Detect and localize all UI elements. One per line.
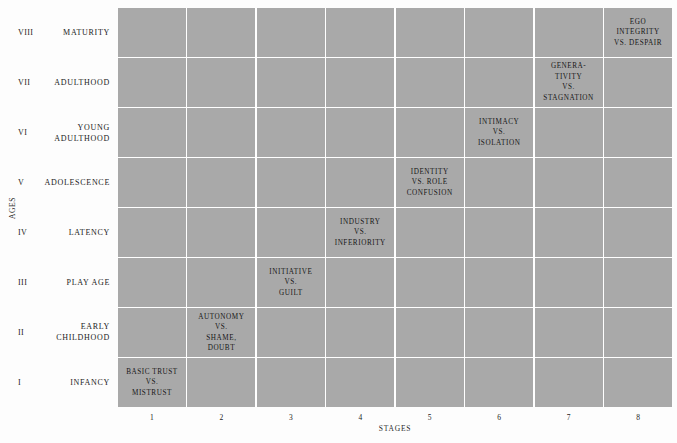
grid-cell[interactable] (604, 158, 672, 207)
grid-cell[interactable] (535, 8, 603, 57)
grid-cell[interactable] (187, 58, 255, 107)
row-name: INFANCY (18, 377, 114, 388)
grid-cell[interactable] (465, 58, 533, 107)
grid-cell[interactable] (326, 158, 394, 207)
grid-cell-intimacy[interactable]: INTIMACY VS. ISOLATION (465, 108, 533, 157)
row-label-infancy: I INFANCY (18, 357, 114, 407)
row-numeral: IV (18, 228, 27, 237)
grid-cell[interactable] (535, 358, 603, 407)
grid-cell[interactable] (396, 208, 464, 257)
grid-cell[interactable] (535, 308, 603, 357)
grid-cell[interactable] (257, 8, 325, 57)
grid-cell[interactable] (257, 108, 325, 157)
column-label-4: 4 (326, 410, 394, 424)
row-label-latency: IV LATENCY (18, 208, 114, 258)
row-numeral: II (18, 328, 24, 337)
grid-cell-ego-integrity[interactable]: EGO INTEGRITY VS. DESPAIR (604, 8, 672, 57)
grid-cell[interactable] (535, 108, 603, 157)
grid-cell[interactable] (187, 108, 255, 157)
column-label-1: 1 (118, 410, 186, 424)
grid-cell[interactable] (465, 358, 533, 407)
row-numeral: I (18, 378, 21, 387)
column-label-row: 1 2 3 4 5 6 7 8 (118, 410, 672, 424)
grid-cell[interactable] (187, 258, 255, 307)
grid-cell[interactable] (396, 358, 464, 407)
grid-cell[interactable] (604, 58, 672, 107)
grid-cell[interactable] (257, 208, 325, 257)
grid-cell[interactable] (465, 158, 533, 207)
grid-cell[interactable] (465, 8, 533, 57)
grid-cell[interactable] (465, 208, 533, 257)
stages-grid: EGO INTEGRITY VS. DESPAIR GENERA- TIVITY… (118, 8, 672, 407)
grid-cell[interactable] (396, 108, 464, 157)
row-numeral: VI (18, 128, 27, 137)
grid-cell[interactable] (604, 108, 672, 157)
grid-cell[interactable] (396, 8, 464, 57)
stages-axis-title: STAGES (118, 424, 672, 433)
grid-cell-identity[interactable]: IDENTITY VS. ROLE CONFUSION (396, 158, 464, 207)
grid-cell[interactable] (118, 308, 186, 357)
row-label-play-age: III PLAY AGE (18, 257, 114, 307)
grid-cell[interactable] (535, 258, 603, 307)
grid-cell[interactable] (257, 58, 325, 107)
grid-cell[interactable] (187, 358, 255, 407)
row-label-adulthood: VII ADULTHOOD (18, 58, 114, 108)
grid-cell-industry[interactable]: INDUSTRY VS. INFERIORITY (326, 208, 394, 257)
grid-cell[interactable] (118, 108, 186, 157)
row-name: ADOLESCENCE (18, 177, 114, 188)
grid-cell[interactable] (118, 258, 186, 307)
grid-cell[interactable] (257, 158, 325, 207)
column-label-8: 8 (604, 410, 672, 424)
grid-cell[interactable] (604, 308, 672, 357)
column-label-6: 6 (465, 410, 533, 424)
row-name: YOUNG ADULTHOOD (18, 122, 114, 144)
column-label-3: 3 (257, 410, 325, 424)
column-label-2: 2 (187, 410, 255, 424)
grid-cell[interactable] (535, 208, 603, 257)
row-label-early-childhood: II EARLY CHILDHOOD (18, 307, 114, 357)
grid-cell[interactable] (465, 258, 533, 307)
grid-cell[interactable] (326, 108, 394, 157)
row-label-column: VIII MATURITY VII ADULTHOOD VI YOUNG ADU… (18, 8, 114, 407)
grid-cell-generativity[interactable]: GENERA- TIVITY VS. STAGNATION (535, 58, 603, 107)
grid-cell[interactable] (187, 158, 255, 207)
grid-cell[interactable] (118, 58, 186, 107)
row-label-maturity: VIII MATURITY (18, 8, 114, 58)
grid-cell[interactable] (604, 208, 672, 257)
grid-cell[interactable] (118, 158, 186, 207)
grid-cell[interactable] (118, 8, 186, 57)
row-name: LATENCY (18, 227, 114, 238)
grid-cell[interactable] (396, 58, 464, 107)
grid-cell[interactable] (604, 258, 672, 307)
grid-cell[interactable] (187, 208, 255, 257)
grid-cell[interactable] (257, 308, 325, 357)
row-label-adolescence: V ADOLESCENCE (18, 158, 114, 208)
grid-cell[interactable] (604, 358, 672, 407)
grid-cell[interactable] (465, 308, 533, 357)
grid-cell[interactable] (396, 308, 464, 357)
grid-cell[interactable] (326, 358, 394, 407)
grid-cell-autonomy[interactable]: AUTONOMY VS. SHAME, DOUBT (187, 308, 255, 357)
grid-cell[interactable] (326, 58, 394, 107)
grid-cell[interactable] (118, 208, 186, 257)
grid-cell-basic-trust[interactable]: BASIC TRUST VS. MISTRUST (118, 358, 186, 407)
column-label-5: 5 (396, 410, 464, 424)
grid-cell[interactable] (187, 8, 255, 57)
grid-cell[interactable] (396, 258, 464, 307)
row-numeral: V (18, 178, 24, 187)
grid-cell[interactable] (257, 358, 325, 407)
grid-cell-initiative[interactable]: INITIATIVE VS. GUILT (257, 258, 325, 307)
grid-cell[interactable] (535, 158, 603, 207)
grid-cell[interactable] (326, 308, 394, 357)
row-numeral: VIII (18, 28, 33, 37)
row-numeral: III (18, 278, 27, 287)
column-label-7: 7 (535, 410, 603, 424)
row-name: EARLY CHILDHOOD (18, 321, 114, 343)
grid-cell[interactable] (326, 258, 394, 307)
row-numeral: VII (18, 78, 30, 87)
grid-cell[interactable] (326, 8, 394, 57)
row-label-young-adulthood: VI YOUNG ADULTHOOD (18, 108, 114, 158)
row-name: PLAY AGE (18, 277, 114, 288)
row-name: ADULTHOOD (18, 77, 114, 88)
